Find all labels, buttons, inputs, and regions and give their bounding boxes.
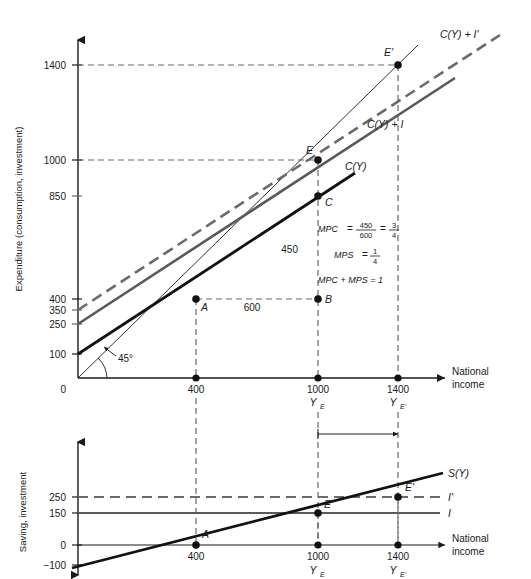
top-ytick-400: 400 (49, 294, 66, 305)
formula-den-4: 4 (392, 231, 396, 240)
formula-mpc-label: MPC (318, 224, 339, 234)
point-x1400-top (394, 374, 401, 381)
bottom-xtick-yeprime-sub: E' (400, 571, 407, 578)
label-span-450: 450 (281, 244, 298, 255)
formula-den-4b: 4 (373, 257, 377, 266)
top-xtick-400: 400 (188, 384, 205, 395)
formula-num-450: 450 (360, 221, 373, 230)
point-a-top (192, 295, 200, 303)
bottom-xtick-1000: 1000 (307, 551, 330, 562)
formula-eq1: = (347, 223, 353, 234)
top-x-axis-label-line2: income (452, 379, 485, 390)
top-ytick-350: 350 (49, 305, 66, 316)
top-y-axis-label: Expenditure (consumption, investment) (13, 127, 24, 292)
top-xtick-ye-sub: E (320, 403, 325, 410)
label-point-b-top: B (325, 293, 332, 305)
formula-identity: MPC + MPS = 1 (318, 275, 383, 285)
bottom-xtick-400: 400 (188, 551, 205, 562)
economics-diagram: 1400 1000 850 400 350 250 100 0 Expendit… (0, 0, 531, 579)
label-cy: C(Y) (345, 160, 367, 172)
point-c-top (314, 192, 322, 200)
label-point-c-top: C (325, 196, 333, 208)
bottom-ytick-250: 250 (49, 492, 66, 503)
label-cy-plus-i: C(Y) + I (367, 118, 404, 130)
label-point-e-bottom: E (324, 498, 332, 510)
point-x1000-bottom (314, 541, 321, 548)
bottom-xtick-ye-base: Y (309, 564, 317, 576)
top-ytick-100: 100 (49, 349, 66, 360)
bottom-ytick-150: 150 (49, 508, 66, 519)
top-ytick-1000: 1000 (44, 155, 67, 166)
point-e-prime-top (394, 61, 402, 69)
label-point-a-bottom: A (201, 528, 209, 540)
top-ytick-250: 250 (49, 319, 66, 330)
label-point-e-top: E (306, 144, 314, 156)
top-xtick-yeprime-base: Y (389, 396, 397, 408)
bottom-xtick-1400: 1400 (387, 551, 410, 562)
formula-eq2: = (380, 223, 386, 234)
label-point-a-top: A (200, 301, 208, 313)
label-sy: S(Y) (448, 467, 469, 479)
top-ytick-1400: 1400 (44, 60, 67, 71)
formula-mps-label: MPS (334, 250, 354, 260)
formula-den-600: 600 (360, 231, 373, 240)
top-xtick-yeprime-sub: E' (400, 403, 407, 410)
top-xtick-1400: 1400 (387, 384, 410, 395)
point-e-bottom (314, 509, 322, 517)
label-point-e-prime-bottom: E' (405, 481, 415, 493)
label-span-600: 600 (244, 302, 261, 313)
point-e-prime-bottom (394, 493, 402, 501)
figure-canvas: 1400 1000 850 400 350 250 100 0 Expendit… (0, 0, 531, 579)
top-x-axis-label-line1: National (452, 366, 489, 377)
angle-label-45: 45° (118, 353, 133, 364)
label-point-e-prime-top: E' (384, 46, 394, 58)
formula-eq3: = (362, 249, 368, 260)
bottom-ytick-neg100: −100 (43, 560, 66, 571)
top-xtick-1000: 1000 (307, 384, 330, 395)
top-xtick-ye-base: Y (309, 396, 317, 408)
bottom-x-axis-label-line1: National (452, 533, 489, 544)
top-origin-label: 0 (60, 384, 66, 395)
formula-num-3: 3 (392, 221, 396, 230)
top-ytick-850: 850 (49, 191, 66, 202)
formula-num-1: 1 (373, 247, 377, 256)
point-e-top (314, 156, 322, 164)
label-cy-plus-iprime: C(Y) + I' (440, 28, 479, 40)
bottom-xtick-yeprime-base: Y (389, 564, 397, 576)
point-a-bottom (192, 541, 200, 549)
bottom-y-axis-label: Saving, investment (17, 472, 28, 553)
bottom-x-axis-label-line2: income (452, 546, 485, 557)
label-i: I (448, 507, 451, 519)
point-x1400-bottom (394, 541, 401, 548)
point-b-top (314, 295, 322, 303)
point-x400-top (192, 374, 199, 381)
point-x1000-top (314, 374, 321, 381)
bottom-xtick-ye-sub: E (320, 571, 325, 578)
bottom-ytick-0: 0 (60, 540, 66, 551)
